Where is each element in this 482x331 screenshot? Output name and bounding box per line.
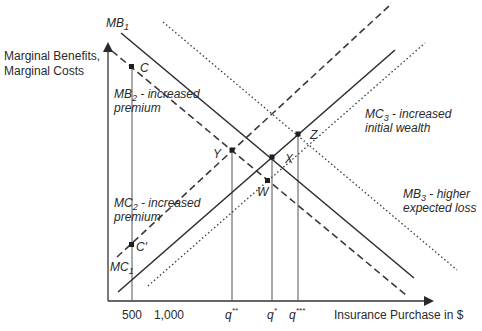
label-mc3-line2: initial wealth — [365, 121, 431, 135]
label-x: X — [284, 152, 294, 166]
y-axis-label-line1: Marginal Benefits, — [4, 49, 100, 63]
label-c: C — [140, 61, 149, 75]
point-c — [129, 64, 134, 69]
point-c-prime — [129, 242, 134, 247]
label-mb3-line2: expected loss — [403, 201, 476, 215]
point-w — [265, 178, 270, 183]
tick-1000: 1,000 — [154, 308, 184, 322]
tick-q-double-star: q** — [225, 306, 239, 322]
tick-500: 500 — [122, 308, 142, 322]
label-mb1: MB1 — [106, 16, 129, 32]
label-w: W — [257, 185, 270, 199]
point-y — [230, 148, 235, 153]
tick-q-star: q* — [267, 306, 278, 322]
point-z — [296, 132, 301, 137]
tick-q-triple-star: q*** — [289, 306, 306, 322]
y-axis-label-line2: Marginal Costs — [4, 64, 84, 78]
label-mc1: MC1 — [110, 260, 134, 276]
label-mc2-line2: premium — [113, 210, 161, 224]
point-x — [270, 155, 275, 160]
label-z: Z — [309, 128, 318, 142]
mb3-curve — [163, 22, 457, 270]
insurance-diagram: C C′ Y X W Z Marginal Benefits, Marginal… — [0, 0, 482, 331]
mb1-curve — [121, 33, 414, 278]
label-y: Y — [213, 147, 222, 161]
label-mb2-line2: premium — [113, 101, 161, 115]
label-c-prime: C′ — [136, 240, 148, 254]
x-axis-label-text: Insurance Purchase in $ — [334, 308, 464, 322]
